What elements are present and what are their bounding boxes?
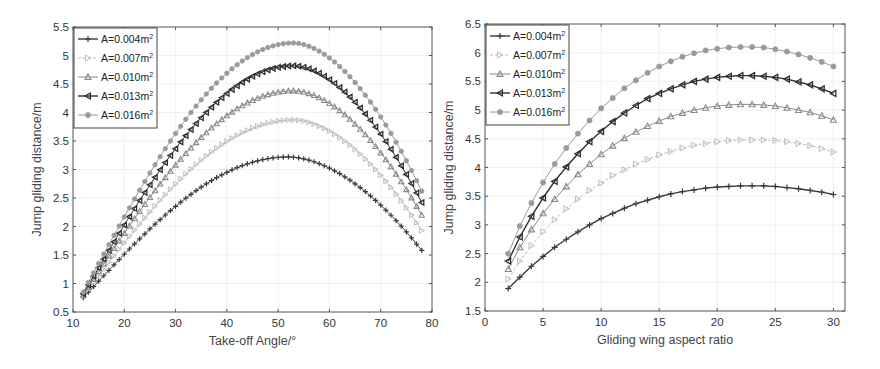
x-tick-label: 80 bbox=[426, 317, 439, 329]
y-tick-label: 3.5 bbox=[53, 135, 69, 147]
legend-label: A=0.004m2 bbox=[101, 33, 153, 45]
legend: A=0.004m2A=0.007m2A=0.010m2A=0.013m2A=0.… bbox=[486, 25, 569, 125]
y-tick-label: 1.5 bbox=[465, 305, 481, 317]
data-marker bbox=[529, 201, 534, 206]
data-marker bbox=[322, 163, 327, 168]
data-marker bbox=[302, 42, 306, 46]
x-tick-label: 15 bbox=[653, 316, 666, 328]
x-tick-label: 30 bbox=[827, 316, 840, 328]
data-marker bbox=[575, 131, 580, 136]
data-marker bbox=[132, 197, 136, 201]
data-marker bbox=[85, 112, 90, 117]
data-marker bbox=[327, 56, 331, 60]
data-marker bbox=[91, 271, 95, 275]
data-marker bbox=[714, 184, 720, 190]
data-marker bbox=[219, 172, 224, 177]
data-marker bbox=[240, 163, 245, 168]
data-marker bbox=[209, 178, 214, 183]
data-marker bbox=[265, 156, 270, 161]
data-marker bbox=[831, 64, 836, 69]
data-marker bbox=[796, 186, 802, 192]
data-marker bbox=[587, 222, 593, 228]
data-marker bbox=[414, 178, 418, 182]
data-marker bbox=[286, 41, 290, 45]
data-marker bbox=[715, 46, 720, 51]
y-tick-label: 4 bbox=[63, 107, 70, 119]
data-marker bbox=[117, 224, 121, 228]
data-marker bbox=[645, 197, 651, 203]
data-marker bbox=[761, 45, 766, 50]
data-marker bbox=[668, 59, 673, 64]
data-marker bbox=[599, 106, 604, 111]
data-marker bbox=[633, 201, 639, 207]
data-marker bbox=[301, 156, 306, 161]
data-marker bbox=[184, 117, 188, 121]
y-tick-label: 1.5 bbox=[53, 249, 69, 261]
data-marker bbox=[148, 171, 152, 175]
data-marker bbox=[194, 104, 198, 108]
data-marker bbox=[250, 160, 255, 165]
data-marker bbox=[796, 52, 801, 57]
data-marker bbox=[266, 45, 270, 49]
x-tick-label: 30 bbox=[169, 317, 182, 329]
data-marker bbox=[343, 69, 347, 73]
y-tick-label: 6 bbox=[475, 47, 481, 59]
data-marker bbox=[260, 157, 265, 162]
data-marker bbox=[342, 174, 347, 179]
y-tick-label: 2.5 bbox=[465, 248, 481, 260]
data-marker bbox=[235, 63, 239, 67]
y-tick-label: 5 bbox=[475, 104, 481, 116]
data-marker bbox=[245, 55, 249, 59]
data-marker bbox=[163, 147, 167, 151]
data-marker bbox=[737, 183, 743, 189]
data-marker bbox=[368, 100, 372, 104]
x-tick-label: 50 bbox=[272, 317, 285, 329]
data-marker bbox=[337, 171, 342, 176]
data-marker bbox=[270, 155, 275, 160]
data-marker bbox=[552, 162, 557, 167]
x-tick-label: 10 bbox=[67, 317, 80, 329]
data-marker bbox=[703, 185, 709, 191]
data-marker bbox=[784, 49, 789, 54]
data-marker bbox=[332, 60, 336, 64]
data-marker bbox=[680, 54, 685, 59]
data-marker bbox=[394, 140, 398, 144]
data-marker bbox=[819, 59, 824, 64]
legend-label: A=0.016m2 bbox=[513, 106, 565, 118]
data-marker bbox=[379, 115, 383, 119]
data-marker bbox=[173, 131, 177, 135]
x-tick-label: 25 bbox=[769, 316, 782, 328]
x-tick-label: 70 bbox=[374, 317, 387, 329]
data-marker bbox=[420, 189, 424, 193]
data-marker bbox=[168, 139, 172, 143]
legend-label: A=0.010m2 bbox=[101, 71, 153, 83]
legend: A=0.004m2A=0.007m2A=0.010m2A=0.013m2A=0.… bbox=[74, 28, 157, 128]
x-tick-label: 20 bbox=[118, 317, 131, 329]
data-marker bbox=[749, 183, 755, 189]
x-tick-label: 5 bbox=[540, 316, 546, 328]
data-marker bbox=[317, 161, 322, 166]
data-marker bbox=[517, 223, 522, 228]
data-marker bbox=[96, 261, 100, 265]
data-marker bbox=[633, 78, 638, 83]
legend-label: A=0.007m2 bbox=[101, 52, 153, 64]
y-tick-label: 6.5 bbox=[465, 18, 481, 30]
data-marker bbox=[703, 48, 708, 53]
data-marker bbox=[224, 170, 229, 175]
data-marker bbox=[112, 233, 116, 237]
data-marker bbox=[189, 110, 193, 114]
x-tick-label: 20 bbox=[711, 316, 724, 328]
data-marker bbox=[505, 258, 510, 264]
legend-label: A=0.010m2 bbox=[513, 68, 565, 80]
data-marker bbox=[153, 163, 157, 167]
data-marker bbox=[137, 188, 141, 192]
data-marker bbox=[610, 95, 615, 100]
data-marker bbox=[337, 64, 341, 68]
y-tick-label: 5.5 bbox=[53, 21, 69, 33]
data-marker bbox=[261, 47, 265, 51]
x-axis-label: Take-off Angle/° bbox=[209, 334, 296, 348]
data-marker bbox=[691, 51, 696, 56]
y-tick-label: 4.5 bbox=[53, 78, 69, 90]
data-marker bbox=[622, 86, 627, 91]
data-marker bbox=[363, 93, 367, 97]
